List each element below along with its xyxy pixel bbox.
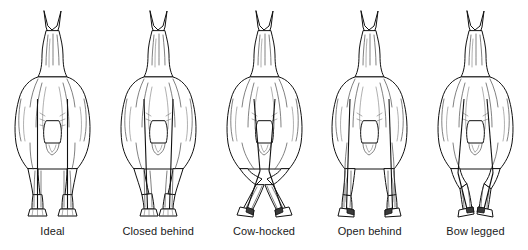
figure-label-open-behind: Open behind [338,225,402,238]
hooves [28,209,77,216]
hind-legs [460,184,491,209]
conformation-diagram: Ideal [0,0,528,250]
figure-closed-behind: Closed behind [106,0,211,250]
horse-body-outline [438,11,513,189]
figure-label-cow-hocked: Cow-hocked [233,225,295,238]
horse-rear-view-open-behind [317,3,422,221]
hooves [237,207,292,217]
figure-label-closed-behind: Closed behind [122,225,194,238]
figure-cow-hocked: Cow-hocked [212,0,317,250]
horse-body-outline [227,11,302,185]
horse-rear-view-ideal [0,3,105,221]
hooves [338,208,401,217]
figure-ideal: Ideal [0,0,105,250]
figure-label-ideal: Ideal [40,225,64,238]
horse-body-outline [332,11,407,196]
figure-open-behind: Open behind [317,0,422,250]
figure-row: Ideal [0,0,528,250]
horse-rear-view-closed-behind [106,3,211,221]
horse-rear-view-bow-legged [423,3,528,221]
horse-body-outline [15,11,90,195]
hind-legs [243,185,286,209]
figure-bow-legged: Bow legged [423,0,528,250]
hooves [140,209,177,216]
horse-body-outline [121,11,196,195]
horse-rear-view-cow-hocked [212,3,317,221]
figure-label-bow-legged: Bow legged [446,225,505,238]
